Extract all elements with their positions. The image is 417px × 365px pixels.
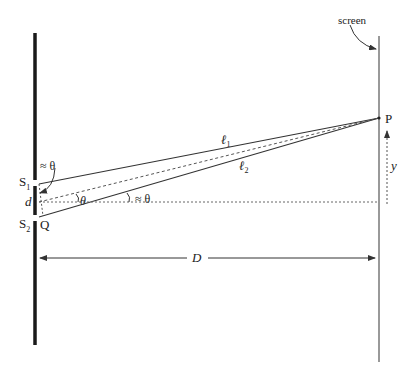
s1-label: S1 — [19, 174, 30, 192]
screen-label: screen — [338, 14, 367, 26]
ray-center-dashed — [39, 118, 379, 202]
theta-center-label: θ — [80, 194, 86, 208]
q-label: Q — [40, 217, 50, 232]
diagram-canvas: screen S1 S2 d Q ≈ θ θ ≈ θ ℓ1 ℓ2 P y D — [0, 0, 417, 365]
l2-label: ℓ2 — [239, 158, 248, 175]
d-label: d — [25, 194, 32, 209]
theta-arc-axis — [127, 193, 130, 202]
point-p — [377, 116, 380, 119]
theta-arc-center — [76, 194, 79, 202]
D-label: D — [191, 250, 202, 265]
ray-l1 — [39, 118, 379, 184]
perpendicular-dashed — [39, 184, 43, 216]
l1-label: ℓ1 — [221, 132, 230, 149]
theta-axis-label: ≈ θ — [135, 192, 151, 206]
s2-label: S2 — [19, 216, 30, 234]
y-label: y — [389, 158, 397, 173]
screen-pointer-arrow — [350, 25, 376, 49]
p-label: P — [385, 111, 392, 126]
theta-top-label: ≈ θ — [40, 159, 56, 173]
